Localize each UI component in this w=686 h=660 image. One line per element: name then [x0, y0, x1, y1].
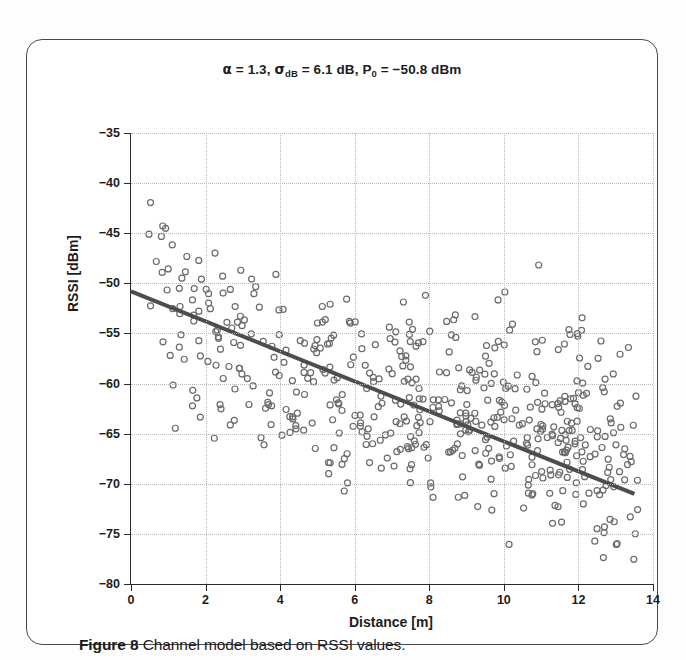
scatter-point [501, 342, 507, 348]
scatter-point [273, 369, 279, 375]
scatter-point [339, 392, 345, 398]
scatter-point [280, 306, 286, 312]
y-axis-tick-label: −40 [99, 176, 120, 190]
scatter-point [191, 286, 197, 292]
scatter-point [226, 364, 232, 370]
scatter-point [148, 303, 154, 309]
y-axis-tick-label: −55 [99, 326, 120, 340]
scatter-point [533, 473, 539, 479]
scatter-point [586, 490, 592, 496]
scatter-point [617, 469, 623, 475]
scatter-point [462, 492, 468, 498]
scatter-point [560, 488, 566, 494]
scatter-point [425, 455, 431, 461]
scatter-point [167, 352, 173, 358]
scatter-point [502, 289, 508, 295]
model-fit-line [131, 291, 634, 493]
scatter-point [573, 491, 579, 497]
scatter-point [217, 346, 223, 352]
scatter-point [529, 373, 535, 379]
scatter-point [573, 480, 579, 486]
scatter-point [595, 355, 601, 361]
x-axis-tick [429, 584, 430, 591]
sigma-symbol: σ [274, 61, 285, 77]
x-axis-tick-label: 10 [497, 593, 511, 607]
scatter-point [608, 420, 614, 426]
scatter-point [427, 328, 433, 334]
scatter-point [430, 494, 436, 500]
scatter-point [549, 402, 555, 408]
x-axis-label: Distance [m] [130, 614, 652, 630]
scatter-point [430, 405, 436, 411]
scatter-point [283, 407, 289, 413]
scatter-point [220, 376, 226, 382]
scatter-point [607, 416, 613, 422]
x-axis-tick [578, 584, 579, 591]
scatter-point [246, 401, 252, 407]
scatter-point [594, 434, 600, 440]
scatter-point [365, 426, 371, 432]
scatter-point [410, 326, 416, 332]
scatter-point [533, 380, 539, 386]
scatter-point [536, 262, 542, 268]
scatter-point [293, 389, 299, 395]
scatter-point [580, 458, 586, 464]
scatter-point [336, 430, 342, 436]
scatter-point [294, 410, 300, 416]
scatter-point [631, 556, 637, 562]
scatter-point [158, 233, 164, 239]
scatter-point [301, 427, 307, 433]
scatter-point [205, 358, 211, 364]
scatter-point [535, 399, 541, 405]
scatter-point [178, 332, 184, 338]
scatter-point [456, 365, 462, 371]
scatter-point [212, 250, 218, 256]
scatter-point [446, 349, 452, 355]
scatter-point [455, 494, 461, 500]
scatter-point [633, 393, 639, 399]
scatter-point [367, 370, 373, 376]
scatter-point [509, 416, 515, 422]
scatter-point [389, 371, 395, 377]
scatter-point [592, 451, 598, 457]
scatter-point [217, 402, 223, 408]
scatter-point [273, 271, 279, 277]
y-axis-tick [124, 183, 131, 184]
alpha-value: = 1.3, [232, 62, 274, 77]
scatter-point [495, 297, 501, 303]
scatter-point [498, 409, 504, 415]
scatter-point [250, 383, 256, 389]
scatter-point [181, 356, 187, 362]
scatter-point [189, 403, 195, 409]
scatter-point [251, 291, 257, 297]
scatter-point [484, 343, 490, 349]
scatter-point [392, 339, 398, 345]
scatter-point [428, 480, 434, 486]
scatter-point [399, 354, 405, 360]
sigma-subscript: dB [285, 68, 298, 79]
scatter-point [196, 257, 202, 263]
scatter-point [547, 490, 553, 496]
x-axis-tick-label: 2 [202, 593, 209, 607]
scatter-point [367, 460, 373, 466]
scatter-point [513, 407, 519, 413]
scatter-point [341, 456, 347, 462]
figure-number: Figure 8 [79, 636, 139, 653]
x-axis-tick-label: 0 [128, 593, 135, 607]
scatter-point [579, 315, 585, 321]
scatter-point [239, 323, 245, 329]
scatter-point [364, 433, 370, 439]
scatter-point [448, 400, 454, 406]
scatter-point [312, 446, 318, 452]
scatter-point [524, 435, 530, 441]
plot-axes: 02468101214−35−40−45−50−55−60−65−70−75−8… [130, 133, 653, 585]
scatter-point [370, 441, 376, 447]
scatter-point [194, 395, 200, 401]
scatter-point [632, 531, 638, 537]
scatter-point [416, 386, 422, 392]
scatter-point [190, 387, 196, 393]
scatter-point [327, 301, 333, 307]
scatter-point [489, 507, 495, 513]
x-axis-tick-label: 8 [426, 593, 433, 607]
scatter-point [613, 442, 619, 448]
